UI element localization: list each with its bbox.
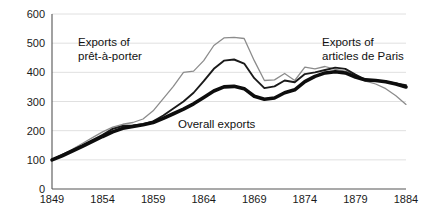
x-tick-label-1859: 1859 — [141, 193, 165, 205]
x-tick-label-1874: 1874 — [293, 193, 317, 205]
x-tick-label-1884: 1884 — [394, 193, 418, 205]
x-tick-label-1869: 1869 — [242, 193, 266, 205]
chart-figure: 0100200300400500600 18491854185918641869… — [0, 0, 422, 223]
pret-a-porter-label-line-0: Exports of — [78, 36, 131, 48]
y-tick-label-400: 400 — [27, 66, 45, 78]
overall-exports-label: Overall exports — [178, 118, 256, 130]
x-tick-label-1864: 1864 — [191, 193, 215, 205]
overall-exports-label-line-0: Overall exports — [178, 118, 256, 130]
x-tick-label-1879: 1879 — [343, 193, 367, 205]
y-tick-label-200: 200 — [27, 125, 45, 137]
x-tick-label-1849: 1849 — [40, 193, 64, 205]
x-tick-label-1854: 1854 — [90, 193, 114, 205]
y-tick-label-100: 100 — [27, 154, 45, 166]
pret-a-porter-label-line-1: prêt-à-porter — [78, 50, 142, 62]
y-tick-label-600: 600 — [27, 8, 45, 20]
y-tick-label-300: 300 — [27, 96, 45, 108]
line-chart: 0100200300400500600 18491854185918641869… — [0, 0, 422, 223]
articles-de-paris-label-line-1: articles de Paris — [322, 50, 404, 62]
articles-de-paris-label-line-0: Exports of — [322, 36, 375, 48]
y-tick-label-500: 500 — [27, 37, 45, 49]
